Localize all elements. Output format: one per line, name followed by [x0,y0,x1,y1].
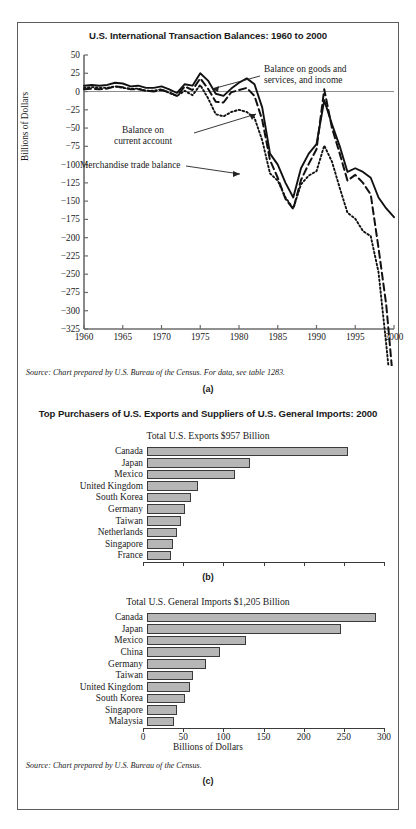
line-chart-y-tick: −50 [65,123,80,133]
line-chart-y-ticks: 50250−25−50−75−100−125−150−175−200−225−2… [36,41,80,366]
line-chart-x-tick: 1980 [230,332,249,342]
imports-bar-row: Canada [18,612,384,623]
exports-subtitle: Total U.S. Exports $957 Billion [18,430,398,441]
exports-bar-row: Singapore [18,539,384,550]
imports-category-label: China [18,647,147,658]
imports-bar-track [147,647,384,658]
exports-axis-tick [344,562,345,566]
imports-category-label: Canada [18,612,147,623]
exports-category-label: Netherlands [18,527,147,538]
imports-bar-track [147,659,384,670]
imports-bar-track [147,624,384,635]
imports-category-label: Mexico [18,635,147,646]
exports-bar-track [147,516,384,527]
imports-bar-track [147,716,384,727]
imports-bar-track [147,670,384,681]
line-chart-y-tick: −250 [61,269,80,279]
exports-bar [147,539,173,549]
imports-category-label: Germany [18,659,147,670]
imports-axis-tick-label: 200 [297,732,311,742]
imports-bar [147,613,376,623]
panel-label-b: (b) [18,572,398,582]
imports-bar [147,671,193,681]
imports-axis-tick-label: 250 [337,732,351,742]
line-chart-x-tick: 1985 [268,332,287,342]
exports-bar [147,458,250,468]
imports-axis-tick-label: 100 [216,732,230,742]
imports-category-label: South Korea [18,693,147,704]
exports-axis-tick [384,562,385,566]
exports-bar-row: Netherlands [18,527,384,538]
imports-bar [147,717,174,727]
exports-bar [147,551,171,561]
figure-a: U.S. International Transaction Balances:… [18,23,398,394]
line-chart-title: U.S. International Transaction Balances:… [18,23,398,41]
exports-bar-track [147,550,384,561]
exports-axis-tick [304,562,305,566]
line-chart-y-tick: −25 [65,105,80,115]
imports-axis-tick-label: 0 [141,732,146,742]
line-chart-y-axis-label: Billions of Dollars [20,92,30,161]
exports-axis-tick [183,562,184,566]
exports-bar [147,447,348,457]
imports-bar [147,647,220,657]
panel-label-c: (c) [18,776,398,786]
line-chart-y-tick: −225 [61,251,80,261]
imports-bar-track [147,705,384,716]
exports-axis-tick [264,562,265,566]
imports-bar [147,682,190,692]
line-chart-x-tick: 2000 [385,332,404,342]
exports-bar-row: France [18,550,384,561]
imports-bar-track [147,682,384,693]
line-chart-y-tick: 50 [71,50,80,60]
imports-bar [147,624,341,634]
exports-bar-track [147,504,384,515]
line-chart-x-tick: 1995 [346,332,365,342]
line-chart-y-tick: 25 [71,68,80,78]
imports-axis-tick-label: 300 [377,732,391,742]
line-chart-x-tick: 1965 [113,332,132,342]
line-chart-y-tick: −150 [61,196,80,206]
line-chart-x-tick: 1960 [75,332,94,342]
imports-category-label: Malaysia [18,716,147,727]
exports-bar-track [147,446,384,457]
exports-bar-track [147,539,384,550]
line-chart-y-tick: −100 [61,160,80,170]
exports-bar [147,528,177,538]
exports-category-label: United Kingdom [18,481,147,492]
imports-category-label: Taiwan [18,670,147,681]
imports-bar-row: Mexico [18,635,384,646]
line-chart-y-tick: 0 [75,87,80,97]
imports-axis-tick-label: 150 [256,732,270,742]
imports-category-label: Singapore [18,705,147,716]
exports-bar-row: South Korea [18,492,384,503]
imports-bar [147,636,246,646]
imports-bar [147,705,177,715]
line-chart-y-tick: −200 [61,233,80,243]
annotation-merchandise-trade: Merchandise trade balance [80,160,180,171]
exports-bar-row: Mexico [18,469,384,480]
imports-bar-track [147,635,384,646]
imports-category-label: United Kingdom [18,682,147,693]
exports-bar-row: Canada [18,446,384,457]
exports-bar [147,470,235,480]
line-chart-y-tick: −300 [61,306,80,316]
figure-page-frame: U.S. International Transaction Balances:… [17,22,399,810]
imports-bar-row: China [18,647,384,658]
line-chart-y-tick: −125 [61,178,80,188]
imports-axis: 050100150200250300 [143,728,384,729]
exports-bar [147,481,198,491]
figure-c-source: Source: Chart prepared by U.S. Bureau of… [18,761,398,770]
imports-bar-row: Japan [18,624,384,635]
panel-label-a: (a) [18,384,398,394]
bar-charts-title: Top Purchasers of U.S. Exports and Suppl… [18,408,398,419]
exports-bar-track [147,481,384,492]
imports-axis-tick-label: 50 [178,732,187,742]
line-chart-x-tick: 1970 [152,332,171,342]
line-chart-x-tick: 1975 [191,332,210,342]
imports-bar-chart: CanadaJapanMexicoChinaGermanyTaiwanUnite… [18,612,398,727]
imports-bar-row: Malaysia [18,716,384,727]
exports-bar-track [147,469,384,480]
exports-category-label: Japan [18,458,147,469]
exports-category-label: Taiwan [18,516,147,527]
